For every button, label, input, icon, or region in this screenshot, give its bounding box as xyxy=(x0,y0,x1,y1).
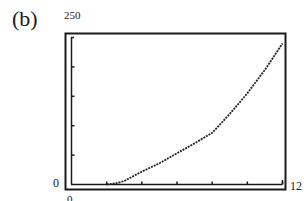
calculator-graph xyxy=(0,0,304,201)
plot-curve xyxy=(107,43,283,184)
outer-frame xyxy=(66,34,286,190)
axis-ticks xyxy=(72,67,283,185)
